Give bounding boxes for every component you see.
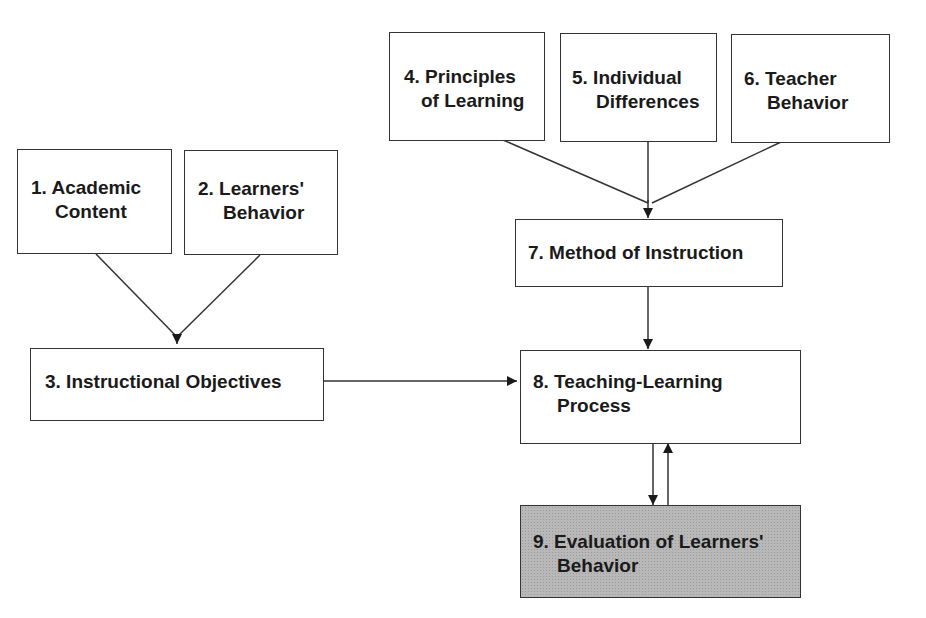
edge-2-3 [177,255,260,337]
node-label: 3. Instructional Objectives [45,370,282,394]
edge-4-7 [503,140,648,203]
node-label: 5. Individual [572,66,682,90]
node-label: 2. Learners' [198,177,304,201]
node-label: Process [557,394,631,418]
node-label: 7. Method of Instruction [528,241,743,265]
node-label: Content [55,200,127,224]
node-teaching-learning-process: 8. Teaching-Learning Process [520,350,801,444]
node-label: Behavior [767,91,848,115]
node-label: Behavior [557,554,638,578]
node-label: of Learning [421,89,524,113]
edge-1-3 [96,254,177,337]
node-label: Behavior [223,201,304,225]
node-principles-of-learning: 4. Principles of Learning [389,32,545,141]
node-label: 4. Principles [404,65,516,89]
edge-6-7 [652,142,781,203]
node-evaluation-of-learners-behavior: 9. Evaluation of Learners' Behavior [520,505,801,598]
node-teacher-behavior: 6. Teacher Behavior [731,34,890,143]
node-individual-differences: 5. Individual Differences [560,33,717,142]
node-label: 8. Teaching-Learning [533,370,723,394]
node-label: 6. Teacher [744,67,837,91]
node-method-of-instruction: 7. Method of Instruction [515,219,783,287]
node-label: 1. Academic [31,176,141,200]
node-academic-content: 1. Academic Content [17,149,172,254]
node-instructional-objectives: 3. Instructional Objectives [30,348,324,421]
node-label: 9. Evaluation of Learners' [533,530,763,554]
node-label: Differences [596,90,700,114]
node-learners-behavior: 2. Learners' Behavior [184,150,338,255]
